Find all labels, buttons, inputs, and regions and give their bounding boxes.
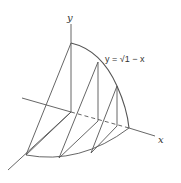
x-axis-label: x	[158, 135, 164, 145]
edge-3	[91, 86, 117, 153]
x-axis-right	[129, 128, 155, 136]
base-line-1	[26, 112, 71, 155]
diagram-canvas	[0, 0, 181, 183]
edge-1	[26, 43, 71, 155]
base-line-3	[91, 126, 117, 153]
y-axis-label: y	[67, 13, 73, 23]
base-curve	[26, 128, 129, 157]
curve-equation: y = √1 − x	[105, 55, 144, 64]
x-axis-hidden	[71, 112, 129, 128]
